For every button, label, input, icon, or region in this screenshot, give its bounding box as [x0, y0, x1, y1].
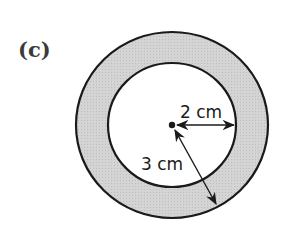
part-label: (c) [18, 37, 51, 62]
outer-radius-label: 3 cm [141, 154, 183, 174]
inner-radius-label: 2 cm [180, 102, 222, 122]
center-point [169, 122, 175, 128]
annulus-diagram: (c) 2 cm 3 cm [0, 0, 293, 234]
